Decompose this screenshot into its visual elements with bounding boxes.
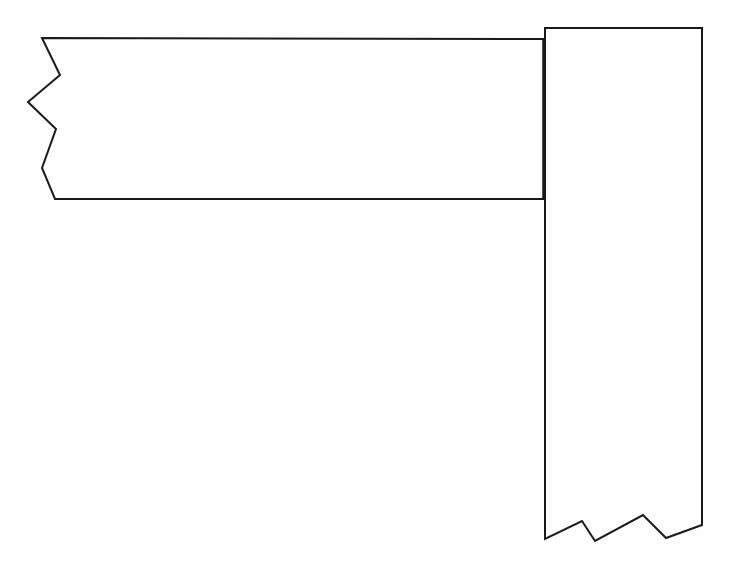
butt-joint-diagram xyxy=(0,0,730,567)
horizontal-board xyxy=(28,38,544,199)
vertical-board xyxy=(545,28,702,541)
